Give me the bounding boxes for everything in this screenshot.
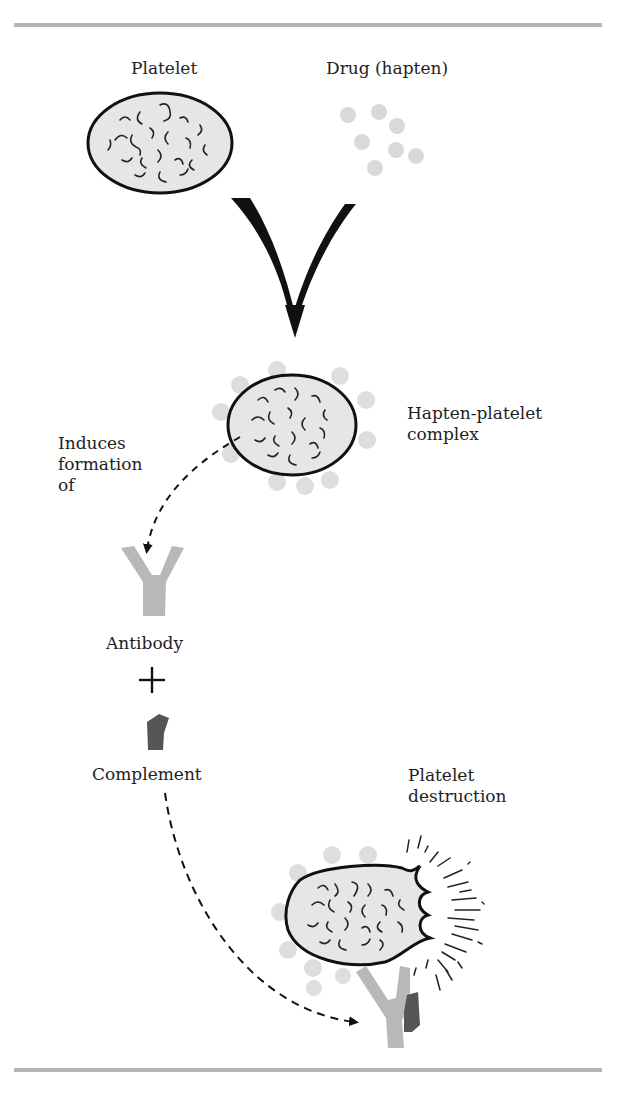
platelet-destruction-label: Platelet destruction [408, 765, 507, 807]
diagram-canvas [0, 0, 626, 1098]
bound-antibody-icon [356, 966, 410, 1048]
drug-hapten-label: Drug (hapten) [326, 58, 448, 79]
antibody-icon [121, 546, 184, 616]
complement-icon [147, 714, 169, 750]
antibody-label: Antibody [106, 633, 183, 654]
platelet-destruction [271, 836, 484, 1048]
induces-formation-label: Induces formation of [58, 433, 142, 496]
hapten-platelet-complex [212, 361, 376, 495]
complement-label: Complement [92, 764, 202, 785]
hapten-platelet-complex-label: Hapten-platelet complex [407, 403, 542, 445]
platelet-label: Platelet [131, 58, 197, 79]
hapten-molecules [340, 104, 424, 176]
plus-icon [139, 667, 165, 693]
merge-arrow-icon [231, 198, 356, 338]
platelet-cell [88, 93, 232, 193]
